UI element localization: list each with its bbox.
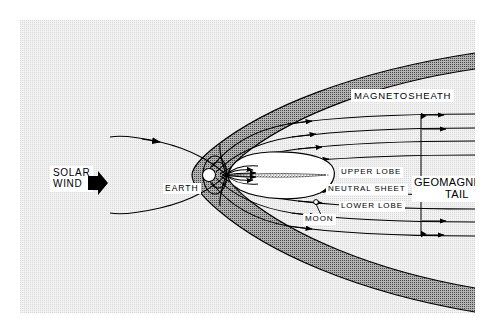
figure-plate: MAGNETOSHEATH SOLAR WIND EARTH UPPER LOB… (20, 20, 475, 313)
earth-disc (203, 169, 216, 182)
label-neutral-sheet: NEUTRAL SHEET (326, 184, 408, 195)
label-lower-lobe: LOWER LOBE (339, 201, 405, 212)
solar-wind-flow-arrow (142, 139, 160, 142)
solar-wind-line-2: WIND (53, 179, 90, 190)
label-magnetosheath: MAGNETOSHEATH (351, 89, 454, 102)
plasma-sheet (228, 152, 334, 199)
moon-marker-icon (314, 200, 319, 205)
label-geomagnetic-tail: GEOMAGNETIC TAIL (412, 176, 475, 202)
label-earth: EARTH (163, 183, 201, 194)
label-moon: MOON (303, 214, 336, 225)
label-upper-lobe: UPPER LOBE (339, 167, 403, 178)
magnetosphere-figure: MAGNETOSHEATH SOLAR WIND EARTH UPPER LOB… (0, 0, 496, 333)
geomagnetic-tail-line-2: TAIL (414, 189, 475, 201)
solar-wind-arrow-icon (87, 170, 109, 196)
